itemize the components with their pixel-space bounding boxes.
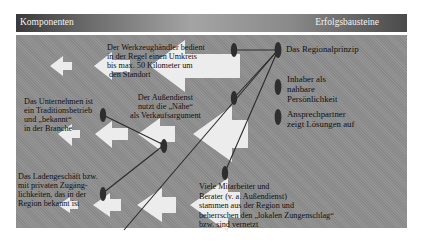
node-regionalprinzip <box>275 42 282 58</box>
success-factor-regionalprinzip: Das Regionalprinzip <box>286 45 359 54</box>
node-intersection <box>161 139 167 153</box>
component-mitarbeiter: Viele Mitarbeiter und Berater (v. a. Auß… <box>199 182 334 230</box>
node-inhaber <box>275 79 282 95</box>
success-factor-inhaber: Inhaber als nahbare Persönlichkeit <box>287 74 337 104</box>
component-ladengeschaeft: Das Ladengeschäft bzw. mit privaten Zugä… <box>18 172 98 208</box>
node-werkzeughaendler <box>231 43 237 57</box>
node-unternehmen <box>100 108 106 122</box>
node-ansprechpartner <box>275 109 282 125</box>
node-aussendienst <box>231 91 237 105</box>
arrow-left-icon <box>50 56 72 76</box>
component-aussendienst: Der Außendienst nutzt die „Nähe“ als Ver… <box>130 93 201 120</box>
success-factor-ansprechpartner: Ansprechpartner zeigt Lösungen auf <box>287 109 354 129</box>
arrow-left-icon <box>137 188 176 222</box>
node-mitarbeiter <box>222 166 228 180</box>
node-ladengeschaeft <box>100 187 106 201</box>
arrow-left-icon <box>138 118 175 150</box>
component-unternehmen: Das Unternehmen ist ein Traditionsbetrie… <box>24 97 93 133</box>
arrow-left-icon <box>193 106 248 162</box>
component-werkzeughaendler: Der Werkzeughändler bedient in der Regel… <box>107 43 205 79</box>
